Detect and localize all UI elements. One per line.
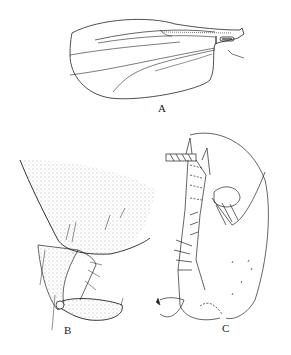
panel-label-a: A xyxy=(158,102,166,114)
panel-label-b: B xyxy=(64,324,71,336)
panel-label-c: C xyxy=(222,322,229,334)
panel-c-line-drawing xyxy=(0,0,291,355)
